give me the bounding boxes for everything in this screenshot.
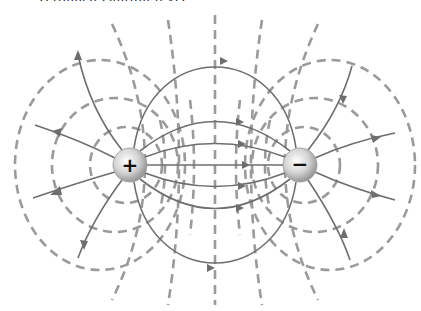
equipotential-mid-right-1 — [251, 20, 262, 305]
dipole-field-diagram: + − — [0, 0, 421, 311]
arrow-pos-up — [74, 50, 82, 60]
positive-charge-label: + — [122, 153, 139, 177]
field-line-pos-upleft — [35, 125, 115, 158]
arrow-neg-down — [340, 228, 348, 238]
equipotential-mid-left-3 — [190, 100, 194, 235]
negative-charge-label: − — [292, 152, 309, 176]
arrow-inner-upper — [238, 140, 246, 148]
arrow-outer-upper — [220, 57, 228, 65]
arrow-inner-lower — [238, 182, 246, 190]
field-line-outer-lower — [134, 182, 296, 263]
field-line-pos-up — [78, 55, 122, 150]
positive-charge: + — [113, 148, 147, 182]
arrow-neg-downright — [371, 190, 381, 198]
negative-charge: − — [283, 148, 317, 182]
field-line-neg-down — [308, 180, 350, 260]
